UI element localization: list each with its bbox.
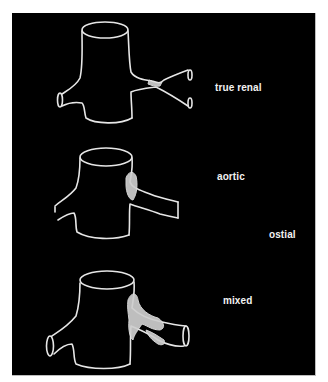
label-mixed: mixed xyxy=(223,296,252,306)
label-ostial: ostial xyxy=(269,230,296,240)
aortic-vessel-drawing xyxy=(55,148,178,238)
mixed-vessel-drawing xyxy=(47,271,190,369)
label-aortic: aortic xyxy=(217,172,245,182)
label-true-renal: true renal xyxy=(215,83,262,93)
renal-artery-lesion-diagram xyxy=(0,0,328,382)
true-renal-vessel-drawing xyxy=(58,22,193,123)
